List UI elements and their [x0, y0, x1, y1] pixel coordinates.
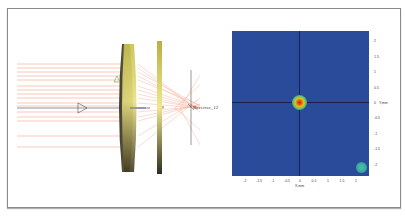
y-tick: 2: [374, 39, 376, 43]
y-tick: 1.5: [374, 55, 379, 59]
x-tick: -0.5: [284, 179, 290, 183]
x-tick: -1.5: [256, 179, 262, 183]
center-spot: [292, 95, 307, 110]
y-tick: 1: [374, 70, 376, 74]
x-axis-label: X,mm: [295, 184, 304, 188]
y-tick: -1.5: [374, 147, 380, 151]
lens-marker-icon: [114, 76, 120, 82]
receiver-label: Receiver_12: [193, 105, 219, 110]
x-tick: 1: [327, 179, 329, 183]
y-tick: -2: [374, 163, 377, 167]
y-axis-label: Y,mm: [379, 101, 388, 105]
incoming-rays: [17, 64, 121, 147]
z-axis-label: z: [148, 105, 150, 110]
x-tick: 2: [355, 179, 357, 183]
irradiance-heatmap: [232, 31, 369, 176]
x-tick: 0: [299, 179, 301, 183]
x-tick: -1: [271, 179, 274, 183]
x-tick: 1.5: [340, 179, 345, 183]
y-tick: -0.5: [374, 116, 380, 120]
x-tick: 0.5: [312, 179, 317, 183]
y-tick: 0.5: [374, 86, 379, 90]
y-axis-label: y: [162, 104, 164, 109]
y-tick: 0: [374, 101, 376, 105]
corner-spot: [356, 162, 367, 173]
x-tick: -2: [243, 179, 246, 183]
y-tick: -1: [374, 132, 377, 136]
